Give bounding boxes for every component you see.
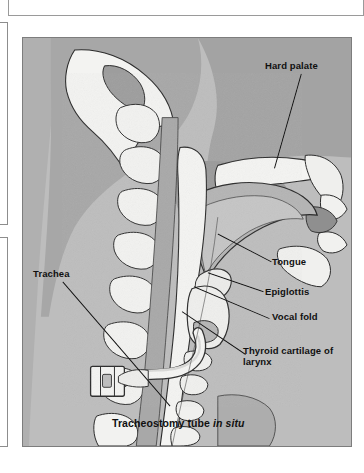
- flange-aperture: [103, 374, 112, 387]
- sagittal-head-neck-illustration: [23, 38, 351, 446]
- label-thyroid-cartilage: Thyroid cartilage of larynx: [243, 345, 351, 367]
- label-tongue: Tongue: [272, 256, 306, 267]
- label-trachea: Trachea: [33, 268, 70, 279]
- page-fragment-top: [8, 0, 364, 16]
- label-epiglottis: Epiglottis: [265, 286, 309, 297]
- caption-italic-text: in situ: [213, 417, 245, 429]
- label-hard-palate: Hard palate: [265, 60, 318, 71]
- label-vocal-fold: Vocal fold: [272, 311, 318, 322]
- page-fragment-left-lower: [0, 237, 8, 447]
- caption-text: Tracheostomy tube: [112, 417, 210, 429]
- tracheostomy-figure-panel: [22, 37, 352, 447]
- figure-caption: Tracheostomy tube in situ: [112, 418, 245, 429]
- page-fragment-left-upper: [0, 22, 8, 225]
